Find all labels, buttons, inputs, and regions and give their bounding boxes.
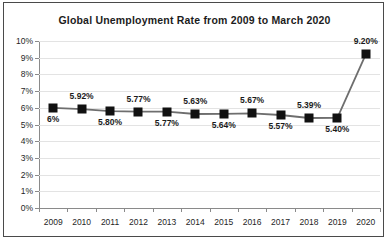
x-axis-tick bbox=[380, 208, 381, 212]
y-axis-label: 1% bbox=[21, 186, 33, 196]
x-axis-tick bbox=[124, 208, 125, 212]
data-point-label: 5.57% bbox=[268, 121, 292, 131]
x-axis-tick bbox=[210, 208, 211, 212]
data-point-marker[interactable] bbox=[162, 107, 171, 116]
y-axis-label: 3% bbox=[21, 153, 33, 163]
x-axis-label: 2011 bbox=[101, 217, 119, 227]
data-point-marker[interactable] bbox=[361, 50, 370, 59]
x-axis-label: 2020 bbox=[356, 217, 375, 227]
data-point-marker[interactable] bbox=[304, 113, 313, 122]
data-point-label: 5.77% bbox=[155, 118, 179, 128]
plot-area: 10%9%8%7%6%5%4%3%2%1%0% 2009201020112012… bbox=[39, 41, 380, 208]
data-point-label: 9.20% bbox=[354, 36, 378, 46]
x-axis-tick bbox=[295, 208, 296, 212]
x-axis-tick bbox=[238, 208, 239, 212]
y-axis-label: 5% bbox=[21, 120, 33, 130]
x-axis-label: 2012 bbox=[129, 217, 148, 227]
data-point-marker[interactable] bbox=[276, 110, 285, 119]
y-axis-label: 2% bbox=[21, 170, 33, 180]
x-axis-tick bbox=[323, 208, 324, 212]
chart-container: Global Unemployment Rate from 2009 to Ma… bbox=[3, 2, 384, 237]
data-point-marker[interactable] bbox=[219, 109, 228, 118]
data-point-label: 5.77% bbox=[126, 94, 150, 104]
x-axis-label: 2009 bbox=[44, 217, 63, 227]
x-axis-label: 2019 bbox=[328, 217, 347, 227]
x-axis-tick bbox=[352, 208, 353, 212]
data-point-label: 5.40% bbox=[325, 124, 349, 134]
data-point-label: 5.67% bbox=[240, 95, 264, 105]
data-point-marker[interactable] bbox=[134, 107, 143, 116]
x-axis-label: 2015 bbox=[214, 217, 233, 227]
y-axis-label: 0% bbox=[21, 203, 33, 213]
x-axis-label: 2018 bbox=[299, 217, 318, 227]
x-axis-label: 2014 bbox=[186, 217, 205, 227]
data-point-label: 6% bbox=[47, 114, 59, 124]
chart-title: Global Unemployment Rate from 2009 to Ma… bbox=[4, 14, 385, 26]
x-axis-tick bbox=[96, 208, 97, 212]
data-point-label: 5.64% bbox=[212, 120, 236, 130]
x-axis-label: 2013 bbox=[157, 217, 176, 227]
x-axis-tick bbox=[39, 208, 40, 212]
data-point-marker[interactable] bbox=[248, 109, 257, 118]
x-axis-label: 2016 bbox=[243, 217, 262, 227]
data-point-marker[interactable] bbox=[77, 105, 86, 114]
data-point-marker[interactable] bbox=[333, 113, 342, 122]
x-axis-label: 2017 bbox=[271, 217, 290, 227]
x-axis-label: 2010 bbox=[72, 217, 91, 227]
data-point-label: 5.80% bbox=[98, 117, 122, 127]
y-axis-label: 7% bbox=[21, 86, 33, 96]
data-point-marker[interactable] bbox=[49, 103, 58, 112]
y-axis-label: 9% bbox=[21, 53, 33, 63]
data-point-label: 5.92% bbox=[70, 91, 94, 101]
y-axis-label: 6% bbox=[21, 103, 33, 113]
y-axis-label: 10% bbox=[16, 36, 33, 46]
y-axis-label: 8% bbox=[21, 69, 33, 79]
y-axis-label: 4% bbox=[21, 136, 33, 146]
data-point-label: 5.63% bbox=[183, 96, 207, 106]
data-point-marker[interactable] bbox=[106, 107, 115, 116]
x-axis-tick bbox=[266, 208, 267, 212]
data-point-marker[interactable] bbox=[191, 109, 200, 118]
data-point-label: 5.39% bbox=[297, 100, 321, 110]
x-axis-tick bbox=[67, 208, 68, 212]
x-axis-tick bbox=[153, 208, 154, 212]
x-axis-tick bbox=[181, 208, 182, 212]
